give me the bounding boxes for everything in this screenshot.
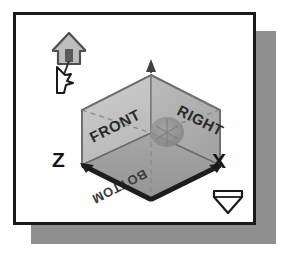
screenshot-root: FRONT RIGHT BOTTOM Z X [0, 0, 288, 253]
viewcube-panel: FRONT RIGHT BOTTOM Z X [13, 12, 256, 225]
funnel-triangle-icon[interactable] [214, 191, 242, 213]
viewcube-canvas: FRONT RIGHT BOTTOM Z X [16, 15, 253, 222]
home-house-icon[interactable] [53, 33, 85, 64]
axis-label-x: X [212, 149, 226, 172]
viewcube-panel-inner: FRONT RIGHT BOTTOM Z X [16, 15, 253, 222]
axis-label-z: Z [52, 148, 65, 171]
home-door-icon [65, 49, 73, 62]
mouse-pointer-arrow-icon [57, 61, 73, 93]
